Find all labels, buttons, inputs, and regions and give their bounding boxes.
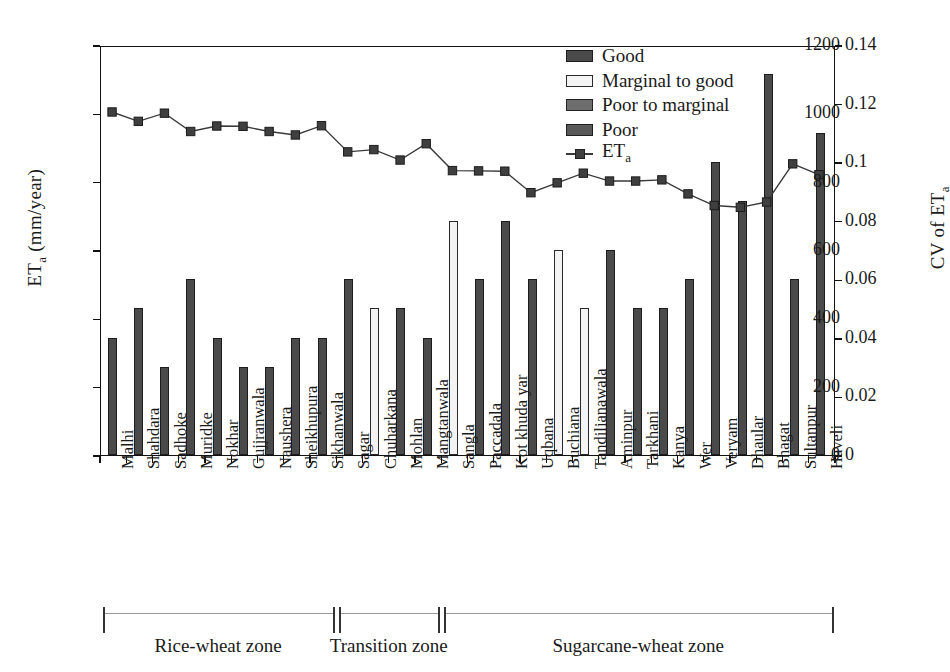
zone-bracket-2-1 — [832, 607, 834, 633]
x-label-kanya: Kanya — [669, 426, 689, 469]
x-label-sheikhupura: Sheikhupura — [302, 386, 322, 469]
y-tick-label-right-2: 0.04 — [845, 327, 935, 348]
zone-bracket-0-0 — [103, 607, 105, 633]
y-tick-right-3 — [835, 280, 842, 281]
y-axis-left-title-prefix: ET — [24, 263, 45, 287]
legend-swatch-poor-icon — [566, 124, 593, 136]
x-label-sultanpur: Sultanpur — [801, 405, 821, 469]
eta-marker-nokhar — [213, 122, 221, 130]
y-tick-label-left-1: 200 — [750, 376, 840, 397]
y-tick-left-5 — [93, 114, 100, 115]
eta-marker-muridke — [186, 127, 194, 135]
x-label-paccadala: Paccadala — [486, 403, 506, 469]
x-label-nokhar: Nokhar — [223, 420, 243, 469]
x-label-haveli: Haveli — [827, 425, 847, 469]
x-label-aminpur: Aminpur — [617, 409, 637, 469]
eta-marker-shahdara — [134, 117, 142, 125]
y-axis-right-title-subscript: a — [937, 186, 950, 192]
legend-label-p2m: Poor to marginal — [602, 93, 729, 118]
legend-eta-subscript: a — [625, 149, 631, 164]
eta-marker-tandilianawala — [579, 169, 587, 177]
x-label-wer: Wer — [696, 442, 716, 469]
legend-label-m2g: Marginal to good — [602, 69, 734, 94]
y-tick-label-right-4: 0.08 — [845, 210, 935, 231]
legend-item-p2m: Poor to marginal — [566, 93, 734, 118]
zone-line-2 — [444, 613, 832, 614]
legend-item-poor: Poor — [566, 118, 734, 143]
legend-label-good: Good — [602, 44, 644, 69]
y-axis-right-title-prefix: CV of ET — [927, 192, 948, 269]
y-tick-label-left-6: 1200 — [750, 34, 840, 55]
x-tick-0 — [99, 456, 100, 463]
y-tick-label-right-0: 0 — [845, 444, 935, 465]
y-tick-label-right-5: 0.1 — [845, 151, 935, 172]
eta-marker-kanya — [658, 176, 666, 184]
y-axis-left-title-suffix: (mm/year) — [24, 169, 45, 257]
eta-marker-tarkhani — [631, 177, 639, 185]
x-label-bhagat: Bhagat — [774, 422, 794, 469]
eta-marker-dhaular — [736, 203, 744, 211]
x-label-naushera: Naushera — [276, 407, 296, 469]
y-tick-right-1 — [835, 397, 842, 398]
x-label-tandilianawala: Tandilianawala — [591, 368, 611, 469]
x-label-tarkhani: Tarkhani — [643, 411, 663, 469]
legend-label-line: ETa — [602, 139, 631, 170]
y-tick-left-2 — [93, 319, 100, 320]
zone-bracket-2-0 — [444, 607, 446, 633]
x-label-veryam: Veryam — [722, 418, 742, 469]
eta-marker-wer — [684, 190, 692, 198]
zone-label-2: Sugarcane-wheat zone — [384, 635, 892, 657]
eta-marker-mohlan — [396, 156, 404, 164]
zone-axis: Rice-wheat zoneTransition zoneSugarcane-… — [100, 607, 835, 669]
x-label-muridke: Muridke — [197, 412, 217, 469]
x-label-sangla: Sangla — [459, 424, 479, 469]
y-tick-label-left-2: 400 — [750, 307, 840, 328]
eta-marker-sikhanwala — [317, 122, 325, 130]
legend-item-m2g: Marginal to good — [566, 69, 734, 94]
x-label-buchiana: Buchiana — [564, 407, 584, 469]
y-tick-right-6 — [835, 104, 842, 105]
eta-marker-kot-khuda-yar — [501, 167, 509, 175]
x-label-mangtanwala: Mangtanwala — [433, 379, 453, 469]
y-tick-left-4 — [93, 182, 100, 183]
x-label-gujjranwala: Gujjranwala — [249, 387, 269, 469]
x-label-shahdara: Shahdara — [144, 408, 164, 469]
eta-marker-sangla — [448, 166, 456, 174]
legend-item-line: ETa — [566, 142, 734, 167]
y-axis-left-title-subscript: a — [34, 257, 49, 263]
y-tick-right-4 — [835, 221, 842, 222]
y-tick-label-left-5: 1000 — [750, 102, 840, 123]
zone-line-0 — [103, 613, 333, 614]
eta-marker-uqbana — [527, 189, 535, 197]
eta-marker-naushera — [265, 127, 273, 135]
eta-marker-buchiana — [553, 179, 561, 187]
legend-swatch-p2m-icon — [566, 99, 593, 111]
legend-swatch-m2g-icon — [566, 75, 593, 87]
eta-marker-sadhoke — [160, 109, 168, 117]
x-label-sadhoke: Sadhoke — [171, 412, 191, 469]
x-label-malhi: Malhi — [118, 430, 138, 469]
y-tick-label-left-4: 800 — [750, 171, 840, 192]
x-label-sagar: Sagar — [354, 431, 374, 469]
legend-eta-prefix: ET — [602, 140, 625, 161]
eta-marker-paccadala — [474, 167, 482, 175]
eta-marker-mangtanwala — [422, 140, 430, 148]
eta-marker-bhagat — [762, 198, 770, 206]
y-tick-left-1 — [93, 387, 100, 388]
y-tick-right-5 — [835, 162, 842, 163]
chart-legend: GoodMarginal to goodPoor to marginalPoor… — [566, 44, 734, 167]
eta-marker-veryam — [710, 201, 718, 209]
zone-line-1 — [339, 613, 438, 614]
y-tick-label-left-3: 600 — [750, 239, 840, 260]
x-label-dhaular: Dhaular — [748, 416, 768, 469]
x-label-chuharkana: Chuharkana — [381, 389, 401, 469]
y-tick-label-right-6: 0.12 — [845, 93, 935, 114]
zone-bracket-1-0 — [339, 607, 341, 633]
y-tick-label-right-3: 0.06 — [845, 268, 935, 289]
legend-swatch-line-icon — [566, 148, 593, 160]
y-tick-right-7 — [835, 45, 842, 46]
x-label-sikhanwala: Sikhanwala — [328, 392, 348, 469]
eta-marker-sagar — [344, 148, 352, 156]
legend-swatch-good-icon — [566, 50, 593, 62]
zone-bracket-0-1 — [333, 607, 335, 633]
